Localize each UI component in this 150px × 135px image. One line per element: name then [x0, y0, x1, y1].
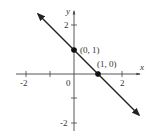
y-tick-label-2: 2 [64, 20, 69, 30]
x-axis-label: x [139, 62, 144, 72]
point-label-1-0: (1, 0) [97, 59, 117, 69]
y-axis-label: y [65, 6, 70, 16]
point-0-1 [71, 47, 77, 53]
point-label-0-1: (0, 1) [80, 45, 100, 55]
graph: -2 0 2 2 -2 x y (0, 1) (1, 0) [0, 0, 150, 135]
y-tick-label-neg2: -2 [60, 118, 68, 128]
origin-label: 0 [66, 78, 71, 88]
line-series [38, 14, 139, 115]
point-1-0 [95, 71, 101, 77]
x-tick-label-2: 2 [120, 78, 125, 88]
x-tick-label-neg2: -2 [20, 78, 28, 88]
